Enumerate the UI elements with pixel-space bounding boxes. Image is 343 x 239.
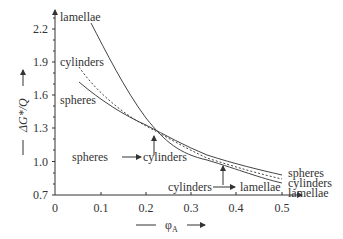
svg-text:φA: φA	[165, 218, 178, 234]
svg-text:spheres: spheres	[72, 150, 108, 164]
svg-text:lamellae: lamellae	[240, 180, 281, 194]
x-tick-labels: 0 0.1 0.2 0.3 0.4 0.5	[52, 201, 290, 215]
curve-labels-left: lamellae cylinders spheres	[60, 10, 104, 107]
transition-spheres-cylinders: spheres cylinders	[72, 136, 187, 164]
y-axis	[52, 10, 55, 195]
svg-text:lamellae: lamellae	[288, 186, 329, 200]
svg-text:0: 0	[52, 201, 58, 215]
svg-text:cylinders: cylinders	[143, 150, 187, 164]
chart: 0.7 1.0 1.3 1.6 1.9 2.2 0 0.1 0.2 0.3 0.…	[0, 0, 343, 239]
svg-text:1.0: 1.0	[33, 155, 48, 169]
svg-text:1.3: 1.3	[33, 121, 48, 135]
svg-text:lamellae: lamellae	[60, 10, 101, 24]
svg-text:0.7: 0.7	[33, 188, 48, 202]
x-axis-label: φA	[136, 218, 205, 234]
curve-labels-right: spheres cylinders lamellae	[288, 166, 332, 200]
svg-text:ΔG*/Q: ΔG*/Q	[16, 98, 30, 133]
svg-text:0.1: 0.1	[94, 201, 109, 215]
svg-text:spheres: spheres	[60, 93, 96, 107]
svg-text:2.2: 2.2	[33, 22, 48, 36]
svg-text:cylinders: cylinders	[60, 55, 104, 69]
y-tick-labels: 0.7 1.0 1.3 1.6 1.9 2.2	[33, 22, 48, 202]
svg-text:1.6: 1.6	[33, 88, 48, 102]
y-axis-label: ΔG*/Q	[16, 70, 30, 155]
svg-text:0.5: 0.5	[275, 201, 290, 215]
svg-text:1.9: 1.9	[33, 55, 48, 69]
svg-text:cylinders: cylinders	[168, 180, 212, 194]
svg-text:0.2: 0.2	[139, 201, 154, 215]
svg-text:0.3: 0.3	[184, 201, 199, 215]
svg-text:0.4: 0.4	[229, 201, 244, 215]
